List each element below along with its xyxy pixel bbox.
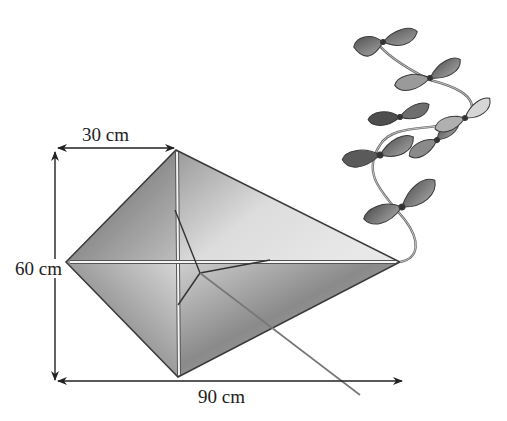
- kite-tail-bows: [340, 19, 495, 228]
- label-top-width: 30 cm: [82, 125, 129, 144]
- bow-5: [431, 97, 496, 136]
- kite-diagram: 30 cm 60 cm 90 cm: [0, 0, 507, 421]
- bow-7: [352, 19, 417, 64]
- label-height: 60 cm: [15, 259, 62, 278]
- bow-3: [367, 103, 430, 127]
- bow-2: [340, 134, 417, 169]
- label-total-length: 90 cm: [198, 387, 245, 406]
- kite-illustration: [0, 0, 507, 421]
- bow-1: [358, 177, 442, 229]
